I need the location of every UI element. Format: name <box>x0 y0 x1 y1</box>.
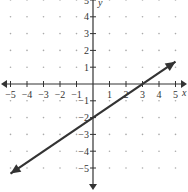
grid-dot <box>109 134 111 136</box>
grid-dot <box>43 100 45 102</box>
x-axis-label: x <box>181 87 187 98</box>
grid-dot <box>26 117 28 119</box>
grid-dot <box>175 167 177 169</box>
grid-dot <box>43 66 45 68</box>
x-tick-label: −5 <box>5 89 16 100</box>
line-arrow-lower-left-icon <box>11 164 22 173</box>
grid-dot <box>142 50 144 52</box>
grid-dot <box>59 134 61 136</box>
grid-dot <box>125 117 127 119</box>
grid-dot <box>59 66 61 68</box>
grid-dot <box>43 16 45 18</box>
y-tick-label: −5 <box>78 163 89 174</box>
grid-dot <box>158 117 160 119</box>
grid-dot <box>26 150 28 152</box>
y-tick-label: 1 <box>84 62 89 73</box>
grid-dot <box>59 117 61 119</box>
grid-dot <box>158 16 160 18</box>
grid-dot <box>175 33 177 35</box>
grid-dot <box>175 16 177 18</box>
x-tick-label: 4 <box>157 89 162 100</box>
grid-dot <box>142 33 144 35</box>
grid-dot <box>109 16 111 18</box>
grid-dot <box>158 66 160 68</box>
grid-dot <box>76 0 78 1</box>
grid-dot <box>158 0 160 1</box>
grid-dot <box>142 134 144 136</box>
grid-dot <box>125 33 127 35</box>
grid-dot <box>76 134 78 136</box>
y-tick-label: 5 <box>84 0 89 6</box>
grid-dot <box>10 33 12 35</box>
x-axis-left-arrow-icon <box>1 80 7 88</box>
grid-dot <box>109 167 111 169</box>
grid-dot <box>43 50 45 52</box>
x-tick-label: 1 <box>107 89 112 100</box>
grid-dot <box>10 134 12 136</box>
grid-dot <box>59 50 61 52</box>
grid-dot <box>10 16 12 18</box>
grid-dot <box>158 33 160 35</box>
line-arrow-upper-right-icon <box>165 62 176 71</box>
grid-dot <box>10 50 12 52</box>
grid-dot <box>125 66 127 68</box>
grid-dot <box>26 0 28 1</box>
grid-dot <box>175 117 177 119</box>
grid-dot <box>142 16 144 18</box>
grid-dot <box>10 117 12 119</box>
grid-dot <box>109 66 111 68</box>
grid-dot <box>175 0 177 1</box>
grid-dot <box>158 150 160 152</box>
grid-dot <box>109 33 111 35</box>
grid-dot <box>125 100 127 102</box>
grid-dot <box>175 134 177 136</box>
grid-dot <box>142 100 144 102</box>
grid-dot <box>142 66 144 68</box>
grid-dot <box>59 33 61 35</box>
grid-dot <box>175 66 177 68</box>
grid-dot <box>125 16 127 18</box>
y-tick-label: −4 <box>78 146 89 157</box>
grid-dot <box>142 150 144 152</box>
grid-dot <box>109 100 111 102</box>
grid-dot <box>59 150 61 152</box>
grid-dot <box>43 0 45 1</box>
y-tick-label: 2 <box>84 45 89 56</box>
grid-dot <box>109 117 111 119</box>
grid-dot <box>76 167 78 169</box>
grid-dot <box>125 150 127 152</box>
grid-dot <box>26 100 28 102</box>
grid-dot <box>142 0 144 1</box>
grid-dot <box>175 50 177 52</box>
x-tick-label: 5 <box>173 89 178 100</box>
y-tick-label: −1 <box>78 95 89 106</box>
grid-dot <box>125 167 127 169</box>
ticks: −5−4−3−2−11234554321−1−2−3−4−5 <box>5 0 178 174</box>
grid-dot <box>59 167 61 169</box>
grid-dot <box>76 50 78 52</box>
grid-dot <box>109 0 111 1</box>
grid-dot <box>10 150 12 152</box>
grid-dot <box>10 0 12 1</box>
grid-dot <box>43 134 45 136</box>
grid-dot <box>59 0 61 1</box>
grid-dot <box>76 117 78 119</box>
grid-dot <box>76 150 78 152</box>
grid-dot <box>109 50 111 52</box>
grid-dot <box>158 50 160 52</box>
grid-dot <box>26 16 28 18</box>
grid-dot <box>125 0 127 1</box>
grid-dot <box>26 167 28 169</box>
grid-dot <box>142 117 144 119</box>
x-tick-label: −2 <box>55 89 66 100</box>
x-tick-label: −4 <box>22 89 33 100</box>
grid-dot <box>142 167 144 169</box>
y-tick-label: 3 <box>84 28 89 39</box>
grid-dot <box>10 167 12 169</box>
grid-dot <box>76 100 78 102</box>
x-tick-label: 3 <box>140 89 145 100</box>
grid-dot <box>175 150 177 152</box>
grid-dot <box>158 134 160 136</box>
x-tick-label: −3 <box>38 89 49 100</box>
grid-dot <box>26 134 28 136</box>
